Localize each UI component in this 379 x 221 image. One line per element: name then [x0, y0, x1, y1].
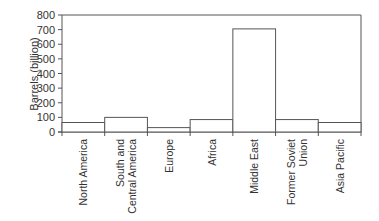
y-tick-label: 700 — [37, 24, 55, 36]
y-tick-label: 100 — [37, 111, 55, 123]
x-category-label: North America — [77, 139, 89, 206]
x-category-label: South and — [114, 139, 126, 187]
y-tick-label: 0 — [49, 126, 55, 138]
y-tick-label: 800 — [37, 9, 55, 21]
x-category-label: Union — [297, 139, 309, 167]
bar-middle-east — [233, 29, 276, 132]
bar-former-soviet-union — [276, 120, 319, 132]
x-category-label: Middle East — [248, 139, 260, 194]
bar-asia-pacific — [318, 122, 361, 132]
y-axis-title: Barrels (billion) — [28, 37, 40, 110]
x-category-label: Former Soviet — [285, 139, 297, 205]
bar-africa — [190, 120, 233, 132]
bar-north-america — [62, 122, 105, 132]
chart-canvas: 0100200300400500600700800Barrels (billio… — [0, 0, 379, 221]
x-category-label: Africa — [206, 139, 218, 166]
x-category-label: Asia Pacific — [334, 139, 346, 193]
x-category-label: Europe — [163, 139, 175, 173]
x-category-label: Central America — [126, 139, 138, 214]
bar-south-and-central-america — [105, 117, 148, 132]
bar-europe — [147, 128, 190, 132]
